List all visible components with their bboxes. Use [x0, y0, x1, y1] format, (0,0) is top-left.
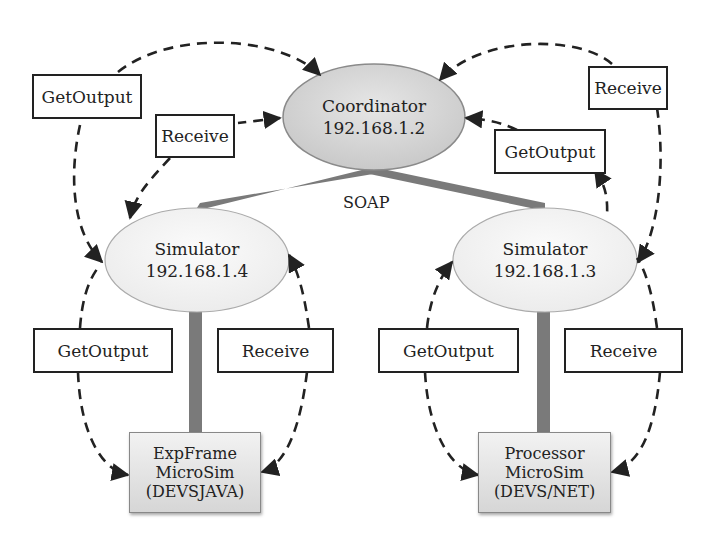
message-receive-top-right: Receive — [588, 66, 668, 110]
microsim-processor-line1: Processor — [504, 444, 584, 463]
microsim-processor-line2: MicroSim — [505, 463, 584, 482]
microsim-expframe-line2: MicroSim — [156, 463, 235, 482]
message-getoutput-right-sim: GetOutput — [378, 328, 519, 373]
simulator-right-name: Simulator — [455, 238, 635, 260]
message-receive-left-sim: Receive — [217, 328, 334, 373]
microsim-expframe-line1: ExpFrame — [153, 444, 237, 463]
soap-label: SOAP — [343, 193, 389, 212]
coordinator-node: Coordinator 192.168.1.2 — [284, 95, 464, 139]
right-sim-connector — [537, 310, 550, 435]
simulator-left-ip: 192.168.1.4 — [107, 260, 287, 282]
microsim-processor: Processor MicroSim (DEVS/NET) — [478, 432, 611, 513]
coordinator-name: Coordinator — [284, 95, 464, 117]
microsim-expframe: ExpFrame MicroSim (DEVSJAVA) — [129, 432, 261, 513]
simulator-left-name: Simulator — [107, 238, 287, 260]
message-getoutput-top-left: GetOutput — [32, 74, 142, 119]
microsim-processor-line3: (DEVS/NET) — [494, 482, 595, 501]
simulator-left-node: Simulator 192.168.1.4 — [107, 238, 287, 282]
message-receive-top-left: Receive — [155, 114, 235, 158]
simulator-right-node: Simulator 192.168.1.3 — [455, 238, 635, 282]
left-sim-connector — [189, 310, 202, 435]
simulator-right-ip: 192.168.1.3 — [455, 260, 635, 282]
coordinator-ip: 192.168.1.2 — [284, 117, 464, 139]
message-getoutput-top-right: GetOutput — [494, 129, 606, 174]
microsim-expframe-line3: (DEVSJAVA) — [146, 482, 245, 501]
message-receive-right-sim: Receive — [564, 328, 683, 373]
message-getoutput-left-sim: GetOutput — [33, 328, 173, 373]
